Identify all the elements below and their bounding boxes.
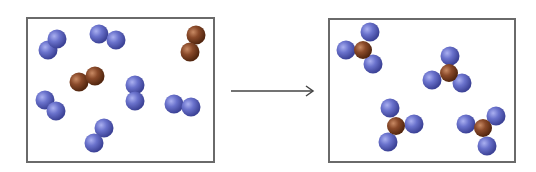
blue-atom xyxy=(48,30,67,49)
diagram-canvas xyxy=(0,0,536,172)
hydrogen-atom xyxy=(337,41,356,60)
hydrogen-atom xyxy=(478,137,497,156)
nitrogen-atom xyxy=(440,64,458,82)
blue-atom xyxy=(165,95,184,114)
nitrogen-atom xyxy=(474,119,492,137)
brown-atom xyxy=(181,43,200,62)
blue-atom xyxy=(126,92,145,111)
brown-atom xyxy=(86,67,105,86)
hydrogen-atom xyxy=(457,115,476,134)
hydrogen-atom xyxy=(405,115,424,134)
hydrogen-atom xyxy=(441,47,460,66)
brown-atom xyxy=(187,26,206,45)
reaction-arrow xyxy=(231,86,313,96)
blue-atom xyxy=(107,31,126,50)
blue-atom xyxy=(85,134,104,153)
blue-atom xyxy=(47,102,66,121)
nitrogen-atom xyxy=(387,117,405,135)
hydrogen-atom xyxy=(423,71,442,90)
nitrogen-atom xyxy=(354,41,372,59)
blue-atom xyxy=(182,98,201,117)
hydrogen-atom xyxy=(381,99,400,118)
atoms-layer xyxy=(36,23,506,156)
hydrogen-atom xyxy=(379,133,398,152)
blue-atom xyxy=(90,25,109,44)
hydrogen-atom xyxy=(361,23,380,42)
